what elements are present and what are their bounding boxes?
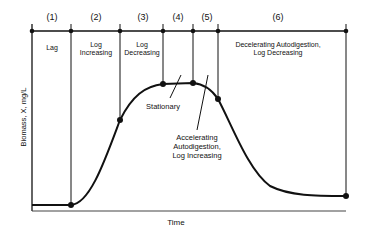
phase-label-log-increasing-1: Log: [90, 41, 102, 49]
phase-label-decelerating-1: Decelerating Autodigestion,: [235, 41, 320, 49]
phase-number-6: (6): [273, 12, 284, 22]
phase-label-lag: Lag: [46, 44, 58, 52]
phase-label-log-increasing-2: Increasing: [80, 49, 112, 57]
callout-accelerating-3: Log Increasing: [172, 151, 221, 160]
phase-number-3: (3): [138, 12, 149, 22]
phase-label-decelerating-2: Log Decreasing: [253, 49, 302, 57]
growth-curve-diagram: (1) (2) (3) (4) (5) (6) Lag Log Increasi…: [0, 0, 379, 236]
x-axis-label: Time: [167, 218, 185, 227]
callout-accelerating-1: Accelerating: [176, 133, 217, 142]
callout-accelerating-2: Autodigestion,: [173, 142, 221, 151]
phase-number-5: (5): [202, 12, 213, 22]
phase-label-log-decreasing-1: Log: [136, 41, 148, 49]
phase-number-2: (2): [91, 12, 102, 22]
phase-label-log-decreasing-2: Decreasing: [124, 49, 160, 57]
callout-stationary: Stationary: [146, 102, 180, 111]
y-axis-label: Biomass, X, mg/L: [19, 88, 28, 147]
phase-number-4: (4): [173, 12, 184, 22]
stationary-leader: [170, 75, 181, 98]
phase-number-1: (1): [47, 12, 58, 22]
